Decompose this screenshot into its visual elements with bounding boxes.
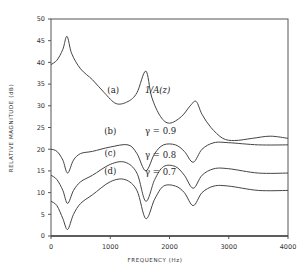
curve-annotations: (a)1/A(z)(b)γ = 0.9(c)γ = 0.8(d)γ = 0.7 (104, 85, 176, 177)
x-axis: 01000200030004000 (49, 236, 296, 251)
y-tick-label: 20 (37, 146, 45, 154)
y-tick-label: 15 (37, 167, 45, 175)
x-tick-label: 4000 (280, 243, 297, 251)
y-tick-label: 30 (37, 102, 45, 110)
curve-annotation: γ = 0.7 (145, 167, 176, 177)
curve-annotation: (c) (105, 148, 116, 158)
y-tick-label: 0 (41, 232, 45, 240)
y-tick-label: 10 (37, 189, 45, 197)
x-axis-title: FREQUENCY (Hz) (128, 257, 183, 263)
curve-annotation: γ = 0.8 (145, 150, 176, 160)
y-axis: 05101520253035404550 (37, 15, 51, 240)
x-tick-label: 0 (49, 243, 53, 251)
x-tick-label: 2000 (161, 243, 178, 251)
x-tick-label: 3000 (220, 243, 237, 251)
y-tick-label: 25 (37, 124, 45, 132)
curve-annotation: (a) (107, 85, 119, 95)
y-tick-label: 5 (41, 211, 45, 219)
frequency-response-chart: 05101520253035404550 01000200030004000 (… (0, 0, 308, 278)
curve-annotation: (b) (104, 126, 116, 136)
y-tick-label: 45 (37, 37, 45, 45)
y-tick-label: 50 (37, 15, 45, 23)
curve-annotation: γ = 0.9 (145, 126, 176, 136)
curve-annotation: 1/A(z) (145, 85, 171, 95)
curve-annotation: (d) (104, 166, 116, 176)
curve-d (51, 179, 288, 230)
y-tick-label: 40 (37, 59, 45, 67)
y-axis-title: RELATIVE MAGNITUDE (dB) (8, 84, 14, 172)
y-tick-label: 35 (37, 80, 45, 88)
x-tick-label: 1000 (102, 243, 119, 251)
